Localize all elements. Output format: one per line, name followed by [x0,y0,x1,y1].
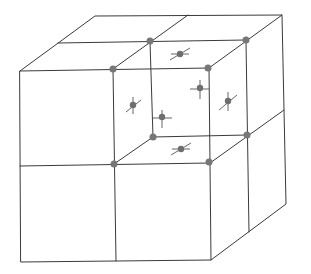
atom-front-top-left [110,66,117,73]
atom-front-top-right [205,65,212,72]
atom-front-bottom-right [206,159,213,166]
atom-front-bottom-left [111,161,118,168]
atom-back-bottom-left [150,134,157,141]
atom-back-bottom-right [244,132,251,139]
atom-back-top-left [147,38,154,45]
fcc-lattice-diagram [0,0,311,274]
atom-back-top-right [243,37,250,44]
